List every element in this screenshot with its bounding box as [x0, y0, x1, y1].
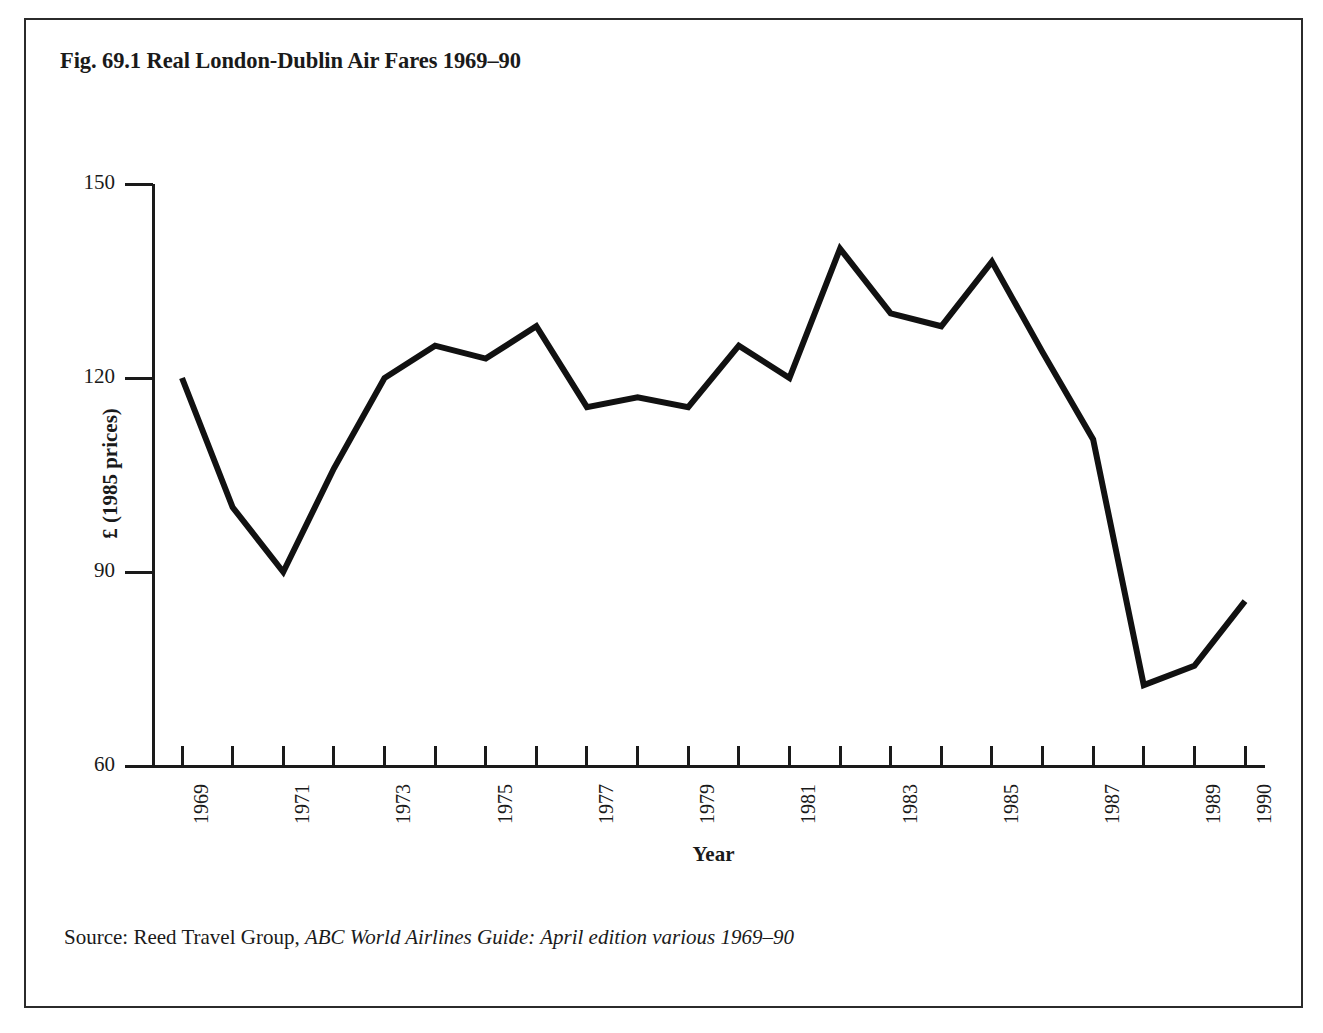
x-tick-label: 1983 — [899, 784, 922, 824]
source-citation: ABC World Airlines Guide: April edition … — [305, 925, 794, 949]
line-chart: 1501209060196919711973197519771979198119… — [0, 0, 1323, 1033]
source-note: Source: Reed Travel Group, ABC World Air… — [64, 925, 794, 950]
x-tick-label: 1981 — [797, 784, 820, 824]
y-tick-label: 150 — [25, 170, 115, 195]
x-tick-label: 1987 — [1101, 784, 1124, 824]
x-tick-label: 1985 — [1000, 784, 1023, 824]
figure-root: Fig. 69.1 Real London-Dublin Air Fares 1… — [0, 0, 1323, 1033]
x-tick-label: 1977 — [595, 784, 618, 824]
y-axis-title: £ (1985 prices) — [98, 364, 123, 584]
axes-group — [125, 184, 1265, 767]
x-tick-label: 1975 — [494, 784, 517, 824]
fare-series-polyline — [182, 249, 1245, 686]
data-series-line — [182, 249, 1245, 686]
chart-canvas — [0, 0, 1323, 1033]
x-tick-label: 1969 — [190, 784, 213, 824]
x-tick-label: 1990 — [1253, 784, 1276, 824]
x-tick-label: 1989 — [1202, 784, 1225, 824]
x-tick-label: 1971 — [291, 784, 314, 824]
x-tick-label: 1973 — [392, 784, 415, 824]
y-tick-label: 60 — [25, 752, 115, 777]
x-axis-title: Year — [654, 842, 774, 867]
x-tick-label: 1979 — [696, 784, 719, 824]
source-prefix: Source: Reed Travel Group, — [64, 925, 305, 949]
